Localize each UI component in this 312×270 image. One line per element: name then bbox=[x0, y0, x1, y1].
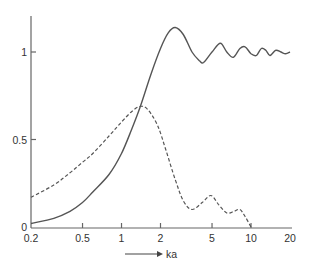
x-axis-arrow: ka bbox=[125, 248, 177, 260]
x-tick-label: 0.2 bbox=[24, 232, 39, 244]
x-tick-label: 5 bbox=[209, 232, 215, 244]
arrow-head-icon bbox=[157, 251, 163, 257]
x-ticks: 0.20.51251020 bbox=[24, 223, 296, 244]
x-tick-label: 0.5 bbox=[75, 232, 90, 244]
y-ticks: 00.51 bbox=[12, 46, 36, 233]
y-tick-label: 1 bbox=[21, 46, 27, 58]
y-tick-label: 0.5 bbox=[12, 134, 27, 146]
x-tick-label: 20 bbox=[284, 232, 296, 244]
x-axis-label: ka bbox=[166, 248, 177, 260]
chart-canvas: 00.51 0.20.51251020 ka bbox=[0, 0, 312, 270]
x-tick-label: 1 bbox=[119, 232, 125, 244]
x-tick-label: 10 bbox=[245, 232, 257, 244]
dashed-series-line bbox=[31, 106, 251, 227]
x-tick-label: 2 bbox=[158, 232, 164, 244]
solid-series-line bbox=[31, 27, 290, 223]
